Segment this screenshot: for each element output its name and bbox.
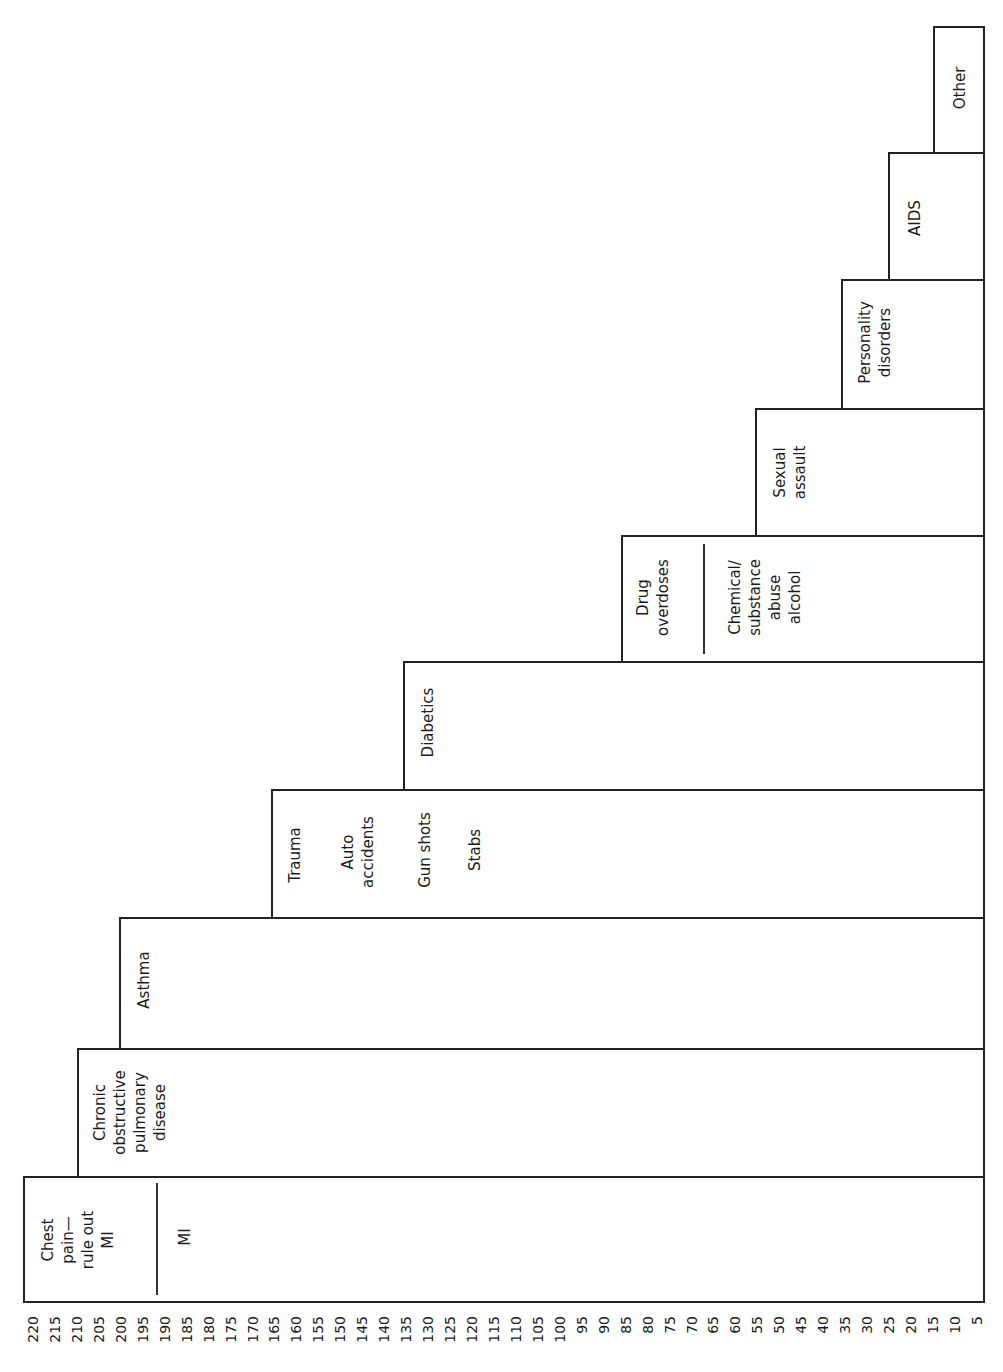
label-aids: AIDS <box>905 188 925 248</box>
axis-tick-label: 160 <box>288 1316 304 1356</box>
axis-tick-label: 5 <box>969 1316 985 1356</box>
label-gun-shots: Gun shots <box>415 795 435 905</box>
box-asthma <box>119 917 985 1050</box>
axis-tick-label: 70 <box>684 1316 700 1356</box>
axis-tick-label: 85 <box>618 1316 634 1356</box>
axis-tick-label: 40 <box>815 1316 831 1356</box>
box-trauma <box>271 789 985 919</box>
axis-tick-label: 60 <box>727 1316 743 1356</box>
axis-tick-label: 135 <box>398 1316 414 1356</box>
label-asthma: Asthma <box>134 940 154 1020</box>
separator-drug-overdoses <box>703 544 705 654</box>
axis-tick-label: 185 <box>179 1316 195 1356</box>
label-other: Other <box>950 58 970 118</box>
axis-tick-label: 170 <box>245 1316 261 1356</box>
axis-tick-label: 190 <box>157 1316 173 1356</box>
label-stabs: Stabs <box>465 815 485 885</box>
axis-tick-label: 145 <box>354 1316 370 1356</box>
label-personality-disorders: Personality disorders <box>855 285 895 400</box>
axis-tick-label: 195 <box>135 1316 151 1356</box>
axis-tick-label: 90 <box>596 1316 612 1356</box>
axis-tick-label: 50 <box>771 1316 787 1356</box>
label-diabetics: Diabetics <box>418 675 438 770</box>
box-copd <box>77 1048 985 1178</box>
axis-tick-label: 110 <box>508 1316 524 1356</box>
axis-tick-label: 15 <box>925 1316 941 1356</box>
axis-tick-label: 25 <box>881 1316 897 1356</box>
axis-tick-label: 175 <box>223 1316 239 1356</box>
axis-tick-label: 205 <box>91 1316 107 1356</box>
axis-tick-label: 130 <box>420 1316 436 1356</box>
axis-tick-label: 155 <box>310 1316 326 1356</box>
axis-tick-label: 150 <box>332 1316 348 1356</box>
axis-tick-label: 220 <box>25 1316 41 1356</box>
axis-tick-label: 20 <box>903 1316 919 1356</box>
label-drug-overdoses: Drug overdoses <box>633 540 673 655</box>
box-chest-pain <box>23 1176 985 1303</box>
label-auto-accidents: Auto accidents <box>338 802 378 902</box>
axis-tick-label: 35 <box>837 1316 853 1356</box>
axis-tick-label: 165 <box>266 1316 282 1356</box>
axis-tick-label: 200 <box>113 1316 129 1356</box>
label-copd: Chronic obstructive pulmonary disease <box>90 1055 170 1170</box>
axis-tick-label: 115 <box>486 1316 502 1356</box>
axis-tick-label: 125 <box>442 1316 458 1356</box>
box-diabetics <box>403 661 985 791</box>
axis-tick-label: 55 <box>749 1316 765 1356</box>
label-chest-pain: Chest pain— rule out MI <box>38 1190 118 1290</box>
label-sexual-assault: Sexual assault <box>770 430 810 515</box>
axis-tick-label: 210 <box>69 1316 85 1356</box>
axis-tick-label: 180 <box>201 1316 217 1356</box>
separator-chest-pain <box>156 1183 158 1295</box>
axis-tick-label: 80 <box>640 1316 656 1356</box>
axis-tick-label: 105 <box>530 1316 546 1356</box>
axis-tick-label: 100 <box>552 1316 568 1356</box>
axis-tick-label: 30 <box>859 1316 875 1356</box>
axis-tick-label: 65 <box>705 1316 721 1356</box>
axis-tick-label: 45 <box>793 1316 809 1356</box>
axis-tick-label: 215 <box>47 1316 63 1356</box>
label-chemical-substance: Chemical/ substance abuse alcohol <box>725 540 805 655</box>
label-trauma: Trauma <box>285 815 305 895</box>
axis-tick-label: 10 <box>947 1316 963 1356</box>
axis-tick-label: 95 <box>574 1316 590 1356</box>
axis-tick-label: 140 <box>376 1316 392 1356</box>
axis-tick-label: 75 <box>662 1316 678 1356</box>
axis-tick-label: 120 <box>464 1316 480 1356</box>
box-aids <box>888 152 985 281</box>
label-mi: MI <box>175 1222 195 1252</box>
